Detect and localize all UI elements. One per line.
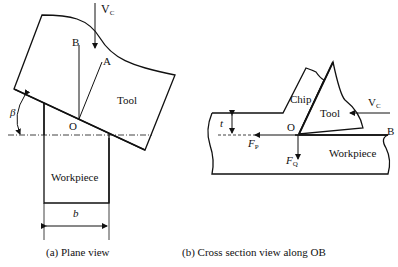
label-velocity-a: VC xyxy=(101,4,114,19)
label-workpiece-a: Workpiece xyxy=(51,172,98,183)
label-chip: Chip xyxy=(290,94,311,105)
label-angle-beta: β xyxy=(10,107,15,118)
label-point-a: A xyxy=(103,56,111,67)
label-velocity-b: VC xyxy=(368,97,381,112)
label-tool-b: Tool xyxy=(320,108,340,119)
label-workpiece-b: Workpiece xyxy=(329,148,376,159)
label-width-b: b xyxy=(73,208,79,219)
label-tool-a: Tool xyxy=(117,95,137,106)
label-force-p: FP xyxy=(248,138,259,153)
workpiece-outline-b xyxy=(208,113,390,174)
label-thickness: t xyxy=(220,118,223,129)
cutting-diagram xyxy=(0,0,398,267)
label-force-q: FQ xyxy=(286,155,298,170)
label-point-b-a: B xyxy=(72,37,79,48)
label-origin-b: O xyxy=(287,122,295,133)
label-point-b-b: B xyxy=(387,126,394,137)
angle-arc xyxy=(17,95,25,134)
label-origin-a: O xyxy=(69,121,77,132)
panel-a-plane-view xyxy=(8,3,175,240)
caption-panel-a: (a) Plane view xyxy=(46,246,110,258)
caption-panel-b: (b) Cross section view along OB xyxy=(182,246,326,258)
